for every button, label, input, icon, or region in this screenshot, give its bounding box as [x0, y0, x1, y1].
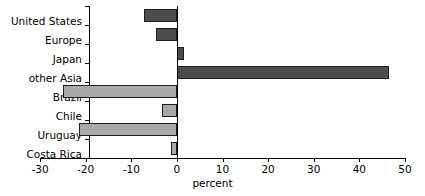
bar	[63, 85, 177, 98]
bar	[177, 47, 184, 60]
chart-figure: United StatesEuropeJapanother AsiaBrazil…	[0, 0, 425, 196]
x-axis-tick-label: 10	[216, 163, 229, 175]
x-axis-tick-label: -10	[123, 163, 140, 175]
y-axis-tick	[85, 63, 89, 64]
x-axis-tick	[359, 158, 360, 162]
y-axis-tick	[85, 158, 89, 159]
x-axis-tick-label: 0	[174, 163, 181, 175]
x-axis-tick-label: 50	[398, 163, 411, 175]
y-axis-tick	[85, 82, 89, 83]
x-axis-title: percent	[0, 177, 425, 189]
x-axis-tick-label: 40	[353, 163, 366, 175]
bar	[177, 66, 389, 79]
x-axis-tick-label: 30	[307, 163, 320, 175]
x-axis-tick	[40, 158, 41, 162]
x-axis-tick-label: -30	[31, 163, 48, 175]
bar	[79, 123, 177, 136]
x-axis-tick	[268, 158, 269, 162]
bar	[156, 28, 177, 41]
bar	[144, 9, 177, 22]
y-axis-tick	[85, 25, 89, 26]
plot-area	[40, 6, 405, 158]
x-axis-tick	[405, 158, 406, 162]
x-axis-tick	[131, 158, 132, 162]
x-axis-tick	[177, 158, 178, 162]
y-axis-tick	[85, 139, 89, 140]
bar	[162, 104, 177, 117]
x-axis-tick	[223, 158, 224, 162]
x-axis-tick	[314, 158, 315, 162]
y-axis-tick	[85, 44, 89, 45]
y-axis-tick	[85, 120, 89, 121]
y-axis-tick	[85, 6, 89, 7]
zero-reference-line	[177, 6, 178, 158]
x-axis-tick-label: 20	[261, 163, 274, 175]
y-axis-tick	[85, 101, 89, 102]
x-axis-tick-label: -20	[77, 163, 94, 175]
